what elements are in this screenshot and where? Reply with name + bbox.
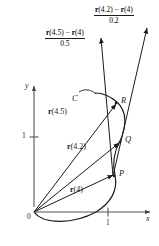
secant-vector-0-5-arrow (101, 38, 113, 176)
curve-c-path (34, 102, 125, 221)
position-vector-group (34, 104, 119, 212)
axis-group (30, 86, 151, 217)
vector-r45-arrow (34, 104, 116, 212)
point-r-dot (115, 102, 118, 105)
secant-label-0-5-numerator: r(4.5) − r(4) (45, 29, 85, 38)
y-tick-label-1: 1 (22, 132, 26, 140)
point-q-dot (119, 141, 122, 144)
point-q-label: Q (125, 135, 131, 144)
secant-label-0-2-numerator: r(4.2) − r(4) (94, 6, 134, 15)
x-tick-label-1: 1 (106, 219, 110, 227)
curve-label-leader (79, 90, 96, 94)
secant-vector-0-2-arrow (113, 28, 147, 176)
point-p-label: P (119, 169, 124, 178)
x-axis-label: x (146, 215, 150, 223)
point-r-label: R (121, 96, 126, 105)
vector-r4-label: r(4) (70, 186, 83, 194)
figure-canvas: r(4.2) − r(4) 0.2 r(4.5) − r(4) 0.5 r(4.… (0, 0, 159, 246)
secant-label-0-2-denominator: 0.2 (94, 17, 134, 26)
point-p-dot (113, 175, 116, 178)
vector-r42-label: r(4.2) (67, 143, 86, 151)
secant-label-0-5: r(4.5) − r(4) 0.5 (45, 29, 85, 48)
origin-label: 0 (27, 213, 31, 221)
vector-r42-arrow (34, 143, 119, 212)
vector-r45-label: r(4.5) (48, 108, 67, 116)
y-axis-label: y (25, 82, 29, 90)
curve-c-label: C (72, 94, 78, 103)
secant-label-0-2: r(4.2) − r(4) 0.2 (94, 6, 134, 25)
secant-label-0-5-denominator: 0.5 (45, 40, 85, 49)
